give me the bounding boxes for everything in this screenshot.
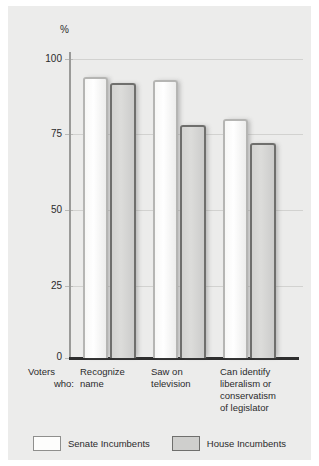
chart-legend: Senate Incumbents House Incumbents [8, 426, 311, 460]
x-label-prefix-line2: who: [28, 378, 74, 390]
bar-senate-recognize-name[interactable] [83, 77, 108, 358]
legend-item-house-incumbents[interactable]: House Incumbents [172, 436, 286, 451]
bar-house-saw-on-television[interactable] [180, 125, 206, 358]
legend-label-senate: Senate Incumbents [68, 438, 150, 449]
bars-layer [8, 6, 311, 358]
x-label-cat3-line2: liberalism or [220, 378, 306, 390]
x-label-prefix-line1: Voters [28, 366, 74, 378]
bar-house-recognize-name[interactable] [110, 83, 136, 358]
legend-label-house: House Incumbents [207, 438, 286, 449]
x-axis-labels: Voters who: Recognize name Saw on televi… [8, 363, 311, 425]
x-label-cat3-line3: conservatism [220, 390, 306, 402]
x-label-cat2-line2: television [151, 378, 221, 390]
legend-item-senate-incumbents[interactable]: Senate Incumbents [33, 436, 150, 451]
plot-area: % 100 75 50 25 0 [8, 6, 311, 366]
x-label-cat1-line2: name [80, 378, 150, 390]
x-label-cat1-line1: Recognize [80, 366, 150, 378]
x-label-cat2-line1: Saw on [151, 366, 221, 378]
x-label-cat3-line4: of legislator [220, 402, 306, 414]
x-label-cat3-line1: Can identify [220, 366, 306, 378]
chart-figure: % 100 75 50 25 0 Voters who: Re [8, 6, 311, 460]
bar-senate-saw-on-television[interactable] [153, 80, 178, 358]
bar-senate-can-identify[interactable] [223, 119, 248, 358]
bar-house-can-identify[interactable] [250, 143, 276, 358]
legend-swatch-house [172, 436, 200, 451]
legend-swatch-senate [33, 436, 61, 451]
